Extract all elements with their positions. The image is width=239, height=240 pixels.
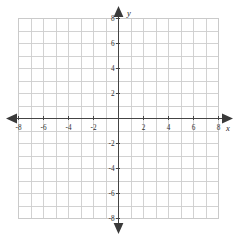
y-axis-tick-label: 6 [111, 40, 115, 48]
y-axis-up-arrow-icon [114, 6, 124, 17]
y-axis-tick-label: -2 [109, 140, 115, 148]
coordinate-grid-figure: -8-6-4-22468-8-6-4-22468 x y [0, 0, 239, 240]
axis-lines [6, 6, 233, 234]
coordinate-plane: -8-6-4-22468-8-6-4-22468 x y [0, 0, 239, 240]
y-axis-down-arrow-icon [114, 223, 124, 234]
x-axis-tick-label: 6 [192, 124, 196, 132]
y-axis-tick-label: 8 [111, 15, 115, 23]
y-axis-tick-label: 2 [111, 90, 115, 98]
y-axis-tick-label: -8 [109, 215, 115, 223]
x-axis-tick-label: 8 [217, 124, 221, 132]
x-axis-tick-label: 4 [167, 124, 171, 132]
y-axis-tick-label: -4 [109, 165, 115, 173]
x-axis-left-arrow-icon [6, 114, 17, 124]
y-axis-tick-label: -6 [109, 190, 115, 198]
x-axis-right-arrow-icon [222, 114, 233, 124]
x-axis-tick-label: 2 [142, 124, 146, 132]
y-axis-name-label: y [126, 8, 131, 18]
x-axis-tick-label: -8 [16, 124, 22, 132]
x-axis-tick-label: -4 [66, 124, 72, 132]
x-axis-name-label: x [225, 123, 230, 133]
y-axis-tick-label: 4 [111, 65, 115, 73]
x-axis-tick-label: -6 [41, 124, 47, 132]
x-axis-tick-label: -2 [91, 124, 97, 132]
